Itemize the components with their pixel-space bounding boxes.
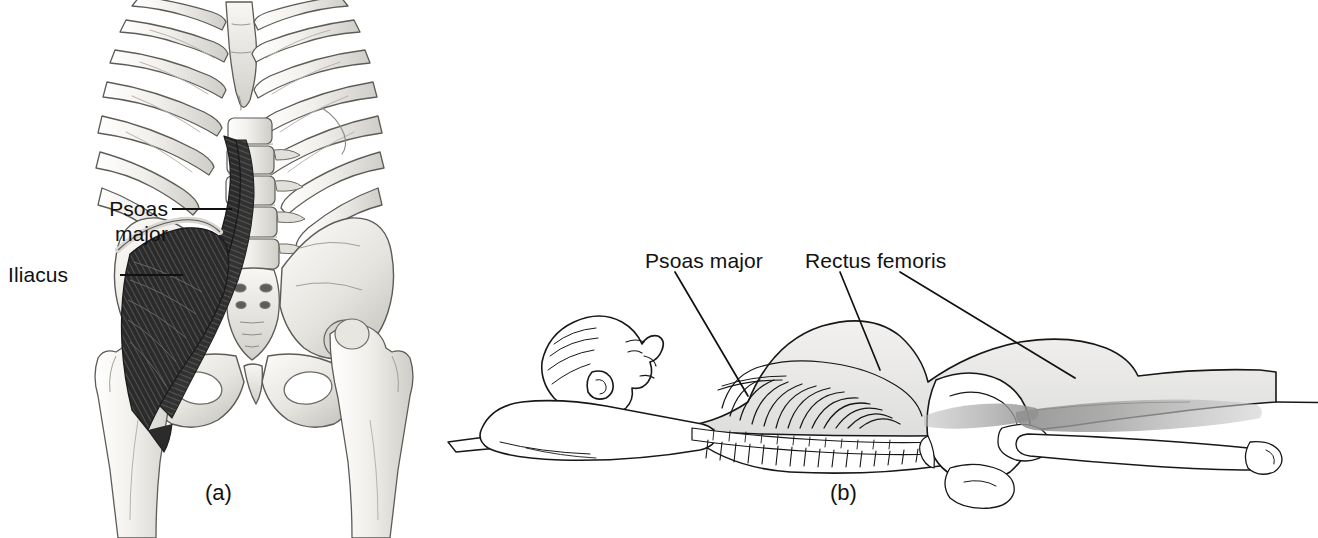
label-psoas-major-a-line2: major: [115, 222, 168, 245]
panel-b: Psoas major Rectus femoris (b): [430, 230, 1318, 530]
label-psoas-major-a-line1: Psoas: [109, 197, 168, 220]
figure-root: Psoasmajor Iliacus (a): [0, 0, 1318, 538]
label-rectus-femoris-b: Rectus femoris: [805, 248, 946, 273]
label-psoas-major-a: Psoasmajor: [50, 196, 168, 246]
label-psoas-major-b: Psoas major: [645, 248, 763, 273]
caption-panel-a: (a): [205, 480, 232, 506]
caption-panel-b: (b): [830, 480, 857, 506]
leader-line-iliacus-a: [120, 274, 183, 276]
leader-line-psoas-major-a: [172, 208, 232, 210]
label-iliacus-a: Iliacus: [8, 262, 118, 287]
panel-a: Psoasmajor Iliacus (a): [0, 0, 440, 538]
panel-b-illustration: [430, 230, 1318, 530]
